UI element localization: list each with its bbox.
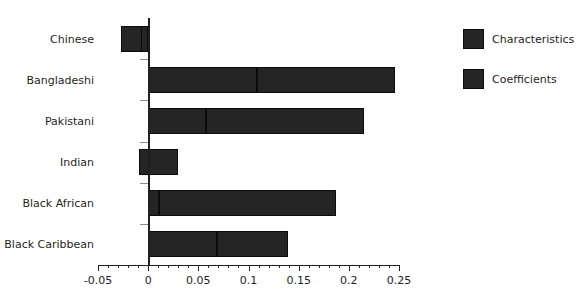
bar-segment-coefficients bbox=[257, 67, 395, 93]
category-label-chinese: Chinese bbox=[2, 32, 94, 45]
bar-segment-coefficients bbox=[139, 149, 178, 175]
x-tick-label-4: 0.15 bbox=[286, 274, 311, 287]
legend-swatch-icon bbox=[463, 69, 484, 89]
x-tick-minor bbox=[188, 265, 189, 268]
x-tick-label-5: 0.2 bbox=[340, 274, 358, 287]
x-tick-minor bbox=[208, 265, 209, 268]
x-tick-minor bbox=[389, 265, 390, 268]
category-label-black-caribbean: Black Caribbean bbox=[2, 238, 94, 251]
x-tick-minor bbox=[218, 265, 219, 268]
x-tick-minor bbox=[158, 265, 159, 268]
category-label-bangladeshi: Bangladeshi bbox=[2, 73, 94, 86]
x-tick-minor bbox=[259, 265, 260, 268]
legend-swatch-icon bbox=[463, 29, 484, 49]
bar-segment-characteristics bbox=[148, 231, 217, 257]
x-tick-minor bbox=[108, 265, 109, 268]
x-tick-label-6: 0.25 bbox=[387, 274, 412, 287]
x-tick-label-2: 0.05 bbox=[186, 274, 211, 287]
x-tick-minor bbox=[379, 265, 380, 268]
x-tick-major bbox=[299, 265, 300, 271]
x-tick-label-3: 0.1 bbox=[240, 274, 258, 287]
x-tick-minor bbox=[329, 265, 330, 268]
x-tick-minor bbox=[289, 265, 290, 268]
x-tick-minor bbox=[118, 265, 119, 268]
x-tick-major bbox=[349, 265, 350, 271]
bar-segment-coefficients bbox=[121, 26, 142, 52]
legend-item-characteristics: Characteristics bbox=[463, 28, 578, 50]
x-tick-label-1: 0 bbox=[145, 274, 152, 287]
x-tick-minor bbox=[138, 265, 139, 268]
bar-segment-coefficients bbox=[159, 190, 336, 216]
zero-axis-line bbox=[148, 18, 150, 265]
x-tick-minor bbox=[238, 265, 239, 268]
x-tick-minor bbox=[319, 265, 320, 268]
row-divider-stub bbox=[140, 100, 148, 101]
chart-legend: CharacteristicsCoefficients bbox=[463, 28, 578, 108]
category-label-pakistani: Pakistani bbox=[2, 114, 94, 127]
plot-area bbox=[98, 18, 399, 265]
bar-segment-coefficients bbox=[217, 231, 287, 257]
bar-segment-characteristics bbox=[148, 108, 206, 134]
legend-label: Characteristics bbox=[492, 33, 574, 46]
x-tick-minor bbox=[309, 265, 310, 268]
x-tick-minor bbox=[369, 265, 370, 268]
row-divider-stub bbox=[140, 59, 148, 60]
x-tick-minor bbox=[359, 265, 360, 268]
row-divider-stub bbox=[140, 224, 148, 225]
x-tick-major bbox=[98, 265, 99, 271]
x-tick-major bbox=[198, 265, 199, 271]
x-tick-minor bbox=[279, 265, 280, 268]
bar-segment-characteristics bbox=[148, 67, 256, 93]
x-tick-minor bbox=[178, 265, 179, 268]
x-tick-minor bbox=[228, 265, 229, 268]
x-tick-label-0: -0.05 bbox=[84, 274, 112, 287]
x-tick-major bbox=[249, 265, 250, 271]
x-tick-major bbox=[399, 265, 400, 271]
x-tick-minor bbox=[128, 265, 129, 268]
x-tick-major bbox=[148, 265, 149, 271]
chart-figure: ChineseBangladeshiPakistaniIndianBlack A… bbox=[0, 0, 582, 298]
x-tick-minor bbox=[339, 265, 340, 268]
legend-item-coefficients: Coefficients bbox=[463, 68, 578, 90]
row-divider-stub bbox=[140, 142, 148, 143]
category-label-column: ChineseBangladeshiPakistaniIndianBlack A… bbox=[0, 0, 94, 298]
category-label-black-african: Black African bbox=[2, 197, 94, 210]
legend-label: Coefficients bbox=[492, 73, 557, 86]
x-tick-minor bbox=[269, 265, 270, 268]
bar-segment-coefficients bbox=[206, 108, 364, 134]
x-tick-minor bbox=[168, 265, 169, 268]
row-divider-stub bbox=[140, 183, 148, 184]
category-label-indian: Indian bbox=[2, 156, 94, 169]
